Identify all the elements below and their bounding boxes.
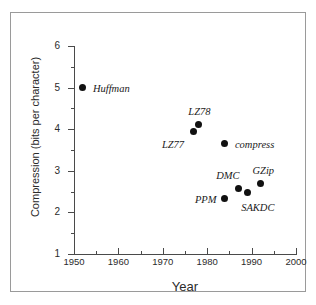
y-axis-line bbox=[74, 46, 75, 255]
data-point bbox=[195, 121, 202, 128]
data-point-label: LZ77 bbox=[162, 140, 184, 151]
y-tick-minor bbox=[71, 150, 74, 151]
x-tick-major: 1990 bbox=[252, 248, 253, 254]
y-tick-label: 4 bbox=[54, 124, 60, 134]
x-tick-minor bbox=[141, 251, 142, 254]
y-tick-major: 3 bbox=[68, 171, 74, 172]
figure-frame: 123456 195019601970198019902000 HuffmanL… bbox=[10, 12, 306, 292]
x-axis-line bbox=[74, 254, 297, 255]
data-point-label: DMC bbox=[216, 171, 239, 182]
y-tick-major: 4 bbox=[68, 129, 74, 130]
data-point bbox=[79, 84, 86, 91]
x-tick-major: 1970 bbox=[163, 248, 164, 254]
y-tick-major: 2 bbox=[68, 212, 74, 213]
data-point-label: LZ78 bbox=[188, 107, 210, 118]
x-tick-label: 1960 bbox=[108, 257, 129, 267]
x-tick-minor bbox=[229, 251, 230, 254]
data-point bbox=[221, 195, 228, 202]
data-point-label: GZip bbox=[252, 166, 274, 177]
y-tick-label: 3 bbox=[54, 166, 60, 176]
data-point bbox=[257, 180, 264, 187]
x-tick-major: 1980 bbox=[207, 248, 208, 254]
data-point-label: SAKDC bbox=[241, 203, 274, 214]
data-point-label: PPM bbox=[195, 195, 217, 206]
y-tick-label: 6 bbox=[54, 41, 60, 51]
x-tick-label: 1950 bbox=[63, 257, 84, 267]
data-point bbox=[190, 128, 197, 135]
data-point bbox=[235, 185, 242, 192]
y-tick-label: 5 bbox=[54, 83, 60, 93]
y-tick-label: 2 bbox=[54, 207, 60, 217]
y-tick-minor bbox=[71, 192, 74, 193]
x-tick-label: 2000 bbox=[285, 257, 306, 267]
x-tick-minor bbox=[96, 251, 97, 254]
x-tick-minor bbox=[185, 251, 186, 254]
y-tick-minor bbox=[71, 233, 74, 234]
data-point-label: compress bbox=[235, 140, 274, 151]
x-tick-minor bbox=[274, 251, 275, 254]
y-tick-minor bbox=[71, 108, 74, 109]
y-axis-title: Compression (bits per character) bbox=[29, 37, 41, 237]
y-tick-major: 6 bbox=[68, 46, 74, 47]
y-tick-major: 1 bbox=[68, 254, 74, 255]
x-tick-label: 1980 bbox=[197, 257, 218, 267]
x-axis-title: Year bbox=[74, 279, 296, 294]
y-tick-label: 1 bbox=[54, 249, 60, 259]
x-tick-major: 1950 bbox=[74, 248, 75, 254]
x-tick-label: 1970 bbox=[152, 257, 173, 267]
y-tick-major: 5 bbox=[68, 88, 74, 89]
y-tick-minor bbox=[71, 67, 74, 68]
data-point bbox=[244, 189, 251, 196]
data-point-label: Huffman bbox=[93, 84, 130, 95]
plot-area: 123456 195019601970198019902000 HuffmanL… bbox=[74, 46, 296, 254]
x-tick-major: 2000 bbox=[296, 248, 297, 254]
x-tick-label: 1990 bbox=[241, 257, 262, 267]
data-point bbox=[221, 140, 228, 147]
x-tick-major: 1960 bbox=[118, 248, 119, 254]
chart-screenshot: 123456 195019601970198019902000 HuffmanL… bbox=[0, 0, 316, 305]
